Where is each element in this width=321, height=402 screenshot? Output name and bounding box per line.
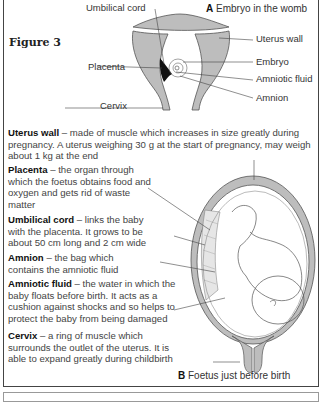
caption-b: B Foetus just before birth (178, 370, 290, 381)
caption-b-letter: B (178, 370, 185, 381)
label-embryo: Embryo (256, 57, 289, 67)
desc-placenta: Placenta – the organ through which the f… (8, 164, 158, 210)
desc-term: Placenta (8, 164, 47, 175)
caption-a-letter: A (206, 3, 213, 14)
desc-term: Uterus wall (8, 127, 59, 138)
caption-a: A Embryo in the womb (206, 3, 307, 14)
desc-term: Cervix (8, 330, 37, 341)
label-amnion: Amnion (256, 93, 288, 103)
desc-term: Amniotic fluid (8, 278, 72, 289)
desc-uterus-wall: Uterus wall – made of muscle which incre… (8, 127, 313, 162)
desc-term: Amnion (8, 252, 44, 263)
caption-b-text: Foetus just before birth (188, 370, 290, 381)
label-umbilical-cord: Umbilical cord (86, 3, 146, 13)
label-uterus-wall: Uterus wall (256, 34, 303, 44)
caption-a-text: Embryo in the womb (216, 3, 307, 14)
desc-cervix: Cervix – a ring of muscle which surround… (8, 330, 188, 365)
label-amniotic-fluid: Amniotic fluid (256, 74, 313, 84)
desc-term: Umbilical cord (8, 214, 74, 225)
desc-umbilical-cord: Umbilical cord – links the baby with the… (8, 214, 158, 249)
desc-amnion: Amnion – the bag which contains the amni… (8, 252, 128, 275)
desc-amniotic-fluid: Amniotic fluid – the water in which the … (8, 278, 178, 324)
label-placenta: Placenta (88, 62, 125, 72)
label-cervix: Cervix (100, 101, 127, 111)
